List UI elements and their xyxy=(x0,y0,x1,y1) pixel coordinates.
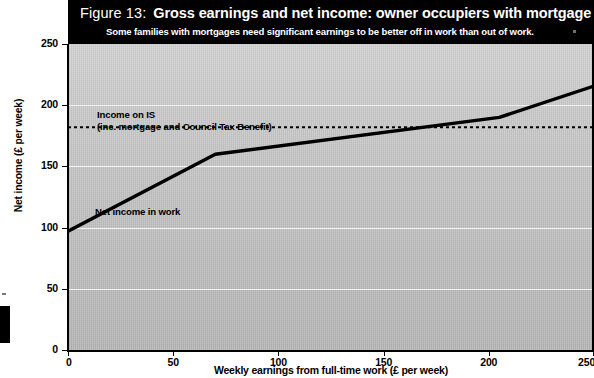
x-axis-line xyxy=(67,350,594,352)
y-tick-250: 250 xyxy=(0,44,67,45)
x-axis-title: Weekly earnings from full-time work (£ p… xyxy=(68,364,594,376)
y-tick-label-0: 0 xyxy=(52,343,58,355)
y-tick-label-150: 150 xyxy=(41,159,58,171)
page-speck-mark xyxy=(2,293,6,295)
y-tick-mark-50 xyxy=(62,289,67,290)
y-tick-label-250: 250 xyxy=(41,37,58,49)
y-tick-label-100: 100 xyxy=(41,221,58,233)
chart-subtitle: Some families with mortgages need signif… xyxy=(106,26,534,37)
header-speck xyxy=(573,30,576,33)
chart-title-row: Figure 13: Gross earnings and net income… xyxy=(80,5,591,21)
y-tick-label-50: 50 xyxy=(47,282,58,294)
page-title: Gross earnings and net income: owner occ… xyxy=(153,5,591,21)
y-tick-label-200: 200 xyxy=(41,98,58,110)
figure-number-label: Figure 13: xyxy=(80,5,146,21)
annotation-income-on-is: Income on IS (inc. mortgage and Council … xyxy=(97,109,272,132)
plot-svg xyxy=(68,44,594,350)
annotation-income-on-is-line2: (inc. mortgage and Council Tax Benefit) xyxy=(97,121,272,132)
y-axis-line xyxy=(67,44,69,352)
y-tick-mark-100 xyxy=(62,228,67,229)
plot-area: Income on IS (inc. mortgage and Council … xyxy=(68,44,594,350)
annotation-net-income-in-work: Net income in work xyxy=(95,206,180,218)
chart-header-band: Figure 13: Gross earnings and net income… xyxy=(68,0,594,44)
y-tick-200: 200 xyxy=(0,105,67,106)
page-bleed-mark xyxy=(0,306,10,343)
y-tick-mark-200 xyxy=(62,105,67,106)
figure-13-chart: Figure 13: Gross earnings and net income… xyxy=(0,0,594,378)
y-tick-50: 50 xyxy=(0,289,67,290)
y-tick-0: 0 xyxy=(0,350,67,351)
y-tick-mark-150 xyxy=(62,166,67,167)
y-tick-100: 100 xyxy=(0,228,67,229)
y-axis-title: Net income (£ per week) xyxy=(13,56,24,256)
y-tick-mark-0 xyxy=(62,350,67,351)
annotation-income-on-is-line1: Income on IS xyxy=(97,109,155,120)
y-tick-150: 150 xyxy=(0,166,67,167)
y-tick-mark-250 xyxy=(62,44,67,45)
